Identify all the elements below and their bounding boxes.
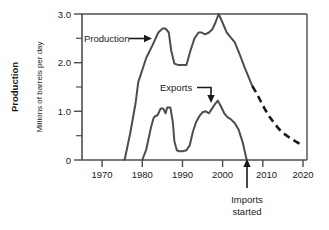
y-tick-labels: 3.0 2.0 1.0 0 (58, 9, 71, 166)
chart-figure: 3.0 2.0 1.0 0 1970 1980 1990 2000 2010 2… (0, 0, 329, 230)
x-tick-label-1990: 1990 (172, 169, 193, 180)
production-exports-line-chart: 3.0 2.0 1.0 0 1970 1980 1990 2000 2010 2… (0, 0, 329, 230)
series-line-production-projection (252, 86, 303, 145)
x-tick-label-1980: 1980 (132, 169, 153, 180)
y-tick-label-0: 0 (66, 155, 71, 166)
exports-annotation: Exports (160, 82, 215, 103)
series-line-exports (142, 101, 246, 160)
exports-arrow-shaft (197, 88, 211, 97)
x-axis (82, 160, 307, 167)
y-axis (74, 14, 82, 160)
exports-arrow-head (207, 95, 214, 103)
y-tick-label-1: 1.0 (58, 106, 71, 117)
exports-annotation-label: Exports (160, 82, 192, 93)
y-tick-label-2: 2.0 (58, 57, 71, 68)
x-tick-label-2000: 2000 (212, 169, 233, 180)
imports-annotation-line2: started (232, 206, 261, 217)
y-axis-title: Millions of barrels per day (35, 41, 44, 132)
imports-started-annotation: Imports started (231, 159, 263, 217)
x-tick-label-1970: 1970 (92, 169, 113, 180)
production-arrow-head (144, 35, 152, 42)
production-annotation: Production (84, 33, 152, 44)
data-series-group (125, 14, 303, 160)
imports-annotation-line1: Imports (231, 194, 263, 205)
y-tick-label-3: 3.0 (58, 9, 71, 20)
axis-titles: Production Millions of barrels per day (9, 41, 44, 132)
production-annotation-label: Production (84, 33, 129, 44)
x-tick-label-2010: 2010 (256, 169, 277, 180)
x-tick-labels: 1970 1980 1990 2000 2010 2020 (92, 169, 314, 180)
y-axis-outer-title: Production (9, 62, 20, 112)
x-tick-label-2020: 2020 (292, 169, 313, 180)
